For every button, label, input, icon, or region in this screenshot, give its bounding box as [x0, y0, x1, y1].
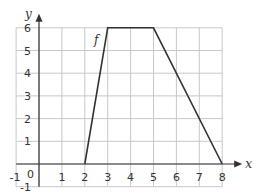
x-tick-label: -1 [10, 171, 21, 184]
x-axis: x [16, 157, 252, 171]
y-tick-label: 3 [24, 90, 31, 103]
x-tick-label: 1 [58, 171, 65, 184]
curve-label-f: f [93, 33, 101, 47]
x-tick-label: 4 [127, 171, 134, 184]
y-tick-label: 2 [24, 113, 31, 126]
x-tick-label: 6 [173, 171, 180, 184]
y-axis-arrow-icon [36, 14, 43, 22]
y-tick-label: 1 [24, 135, 31, 148]
grid-lines [16, 28, 222, 187]
x-tick-label: 8 [219, 171, 226, 184]
x-tick-label: 7 [196, 171, 203, 184]
x-tick-labels: -112345678 [10, 171, 226, 184]
y-tick-label: 6 [24, 22, 31, 35]
y-axis-label: y [24, 7, 32, 21]
y-tick-label: 5 [24, 45, 31, 58]
x-tick-label: 5 [150, 171, 157, 184]
x-tick-label: 3 [104, 171, 111, 184]
y-tick-label: 4 [24, 67, 31, 80]
y-tick-label: -1 [20, 181, 31, 194]
origin-label: 0 [27, 168, 34, 181]
x-axis-arrow-icon [234, 161, 242, 168]
x-axis-label: x [245, 157, 252, 171]
function-graph: x y -112345678 -1123456 0 f [0, 0, 256, 195]
x-tick-label: 2 [81, 171, 88, 184]
